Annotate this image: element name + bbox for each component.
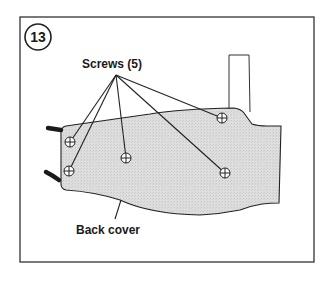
diagram-figure: 13 — [0, 0, 328, 287]
left-clip-top — [48, 128, 61, 130]
cover-tab — [229, 55, 250, 112]
step-number: 13 — [30, 29, 46, 45]
step-badge: 13 — [25, 24, 51, 50]
screw-icon — [64, 166, 74, 176]
screw-icon — [121, 153, 131, 163]
screws-label: Screws (5) — [82, 57, 142, 71]
screw-icon — [65, 137, 75, 147]
screw-icon — [217, 113, 227, 123]
back-cover-label: Back cover — [76, 223, 140, 237]
screw-icon — [220, 168, 230, 178]
